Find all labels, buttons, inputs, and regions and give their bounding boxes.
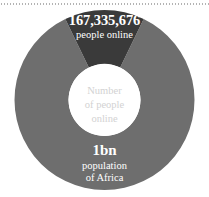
- population-value: 1bn: [0, 142, 209, 159]
- online-callout: 167,335,676 people online: [0, 12, 209, 41]
- population-label-line-1: population: [0, 160, 209, 173]
- center-caption-line-3: online: [0, 112, 209, 126]
- online-value: 167,335,676: [0, 12, 209, 28]
- online-label: people online: [0, 29, 209, 41]
- population-label: population of Africa: [0, 160, 209, 185]
- center-caption-line-1: Number: [0, 84, 209, 98]
- donut-chart-figure: 167,335,676 people online Number of peop…: [0, 0, 209, 197]
- center-caption-line-2: of people: [0, 98, 209, 112]
- center-caption: Number of people online: [0, 84, 209, 127]
- population-callout: 1bn population of Africa: [0, 142, 209, 185]
- population-label-line-2: of Africa: [0, 172, 209, 185]
